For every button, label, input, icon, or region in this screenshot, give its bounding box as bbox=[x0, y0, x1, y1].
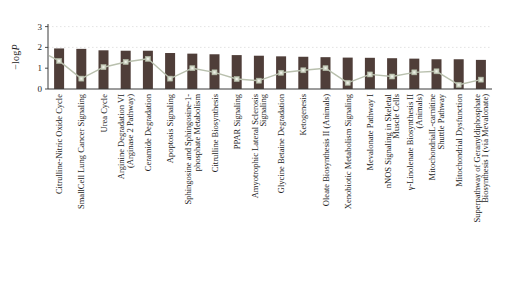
bar bbox=[54, 48, 64, 89]
bar bbox=[76, 49, 86, 89]
y-tick-label: 0 bbox=[38, 84, 43, 94]
x-category-label: Signaling bbox=[258, 93, 268, 126]
x-category-label: SmallCell Lung Cancer Signaling bbox=[76, 93, 86, 209]
x-category-label: Ceramide Degradation bbox=[143, 93, 153, 171]
x-category-label: Citrulline Biosynthesis bbox=[210, 94, 220, 172]
bar bbox=[165, 53, 175, 89]
line-marker-center bbox=[236, 78, 238, 80]
x-category-label: Ketogenesis bbox=[298, 94, 308, 136]
x-category-label: phosphate Metabolism bbox=[192, 94, 202, 172]
line-marker-center bbox=[258, 80, 260, 82]
line-marker-center bbox=[214, 71, 216, 73]
x-category-label: Citrulline-Nitric Oxide Cycle bbox=[54, 94, 64, 194]
x-category-label: Xenobiotic Metabolism Signaling bbox=[343, 93, 353, 209]
y-tick-label: 1 bbox=[38, 63, 43, 73]
line-marker-center bbox=[280, 72, 282, 74]
bar bbox=[187, 54, 197, 89]
bar bbox=[121, 51, 131, 89]
x-category-label: Mevalonate Pathway I bbox=[365, 94, 375, 171]
bar bbox=[476, 60, 486, 89]
chart-canvas: 0123Citrulline-Nitric Oxide CycleSmallCe… bbox=[0, 0, 518, 283]
line-marker-center bbox=[169, 78, 171, 80]
x-category-label: Apoptosis Signaling bbox=[165, 93, 175, 163]
line-marker-center bbox=[391, 76, 393, 78]
pathway-enrichment-chart: −logP 0123Citrulline-Nitric Oxide CycleS… bbox=[0, 0, 518, 283]
line-marker-center bbox=[436, 70, 438, 72]
line-marker-center bbox=[413, 71, 415, 73]
line-marker-center bbox=[325, 67, 327, 69]
bar bbox=[254, 56, 264, 89]
y-tick-label: 3 bbox=[38, 22, 43, 32]
x-category-label: Shuttle Pathway bbox=[436, 93, 446, 149]
line-marker-center bbox=[191, 67, 193, 69]
x-category-label: Oleate Biosynthesis II (Animals) bbox=[321, 94, 331, 206]
line-marker-center bbox=[125, 61, 127, 63]
x-category-label: Glycine Betaine Degradation bbox=[276, 93, 286, 193]
line-marker-center bbox=[347, 82, 349, 84]
line-marker-center bbox=[302, 69, 304, 71]
x-category-label: PPAR Signaling bbox=[232, 93, 242, 149]
line-marker-center bbox=[480, 79, 482, 81]
x-category-label: Urea Cycle bbox=[99, 94, 109, 133]
line-marker-center bbox=[458, 84, 460, 86]
x-category-label: Biosynthesis I (via Mevalonate) bbox=[480, 94, 490, 203]
line-marker-center bbox=[369, 73, 371, 75]
line-marker-center bbox=[103, 66, 105, 68]
bar bbox=[232, 55, 242, 89]
x-category-label: (Animals) bbox=[414, 94, 424, 129]
x-category-label: Muscle Cells bbox=[391, 94, 401, 139]
bar bbox=[387, 58, 397, 89]
line-marker-center bbox=[147, 58, 149, 60]
y-tick-label: 2 bbox=[38, 42, 43, 52]
line-marker-center bbox=[80, 78, 82, 80]
x-category-label: Mitochondrial Dysfunction bbox=[454, 93, 464, 187]
x-category-label: (Arginase 2 Pathway) bbox=[125, 94, 135, 168]
line-marker-center bbox=[58, 60, 60, 62]
bar bbox=[321, 57, 331, 89]
